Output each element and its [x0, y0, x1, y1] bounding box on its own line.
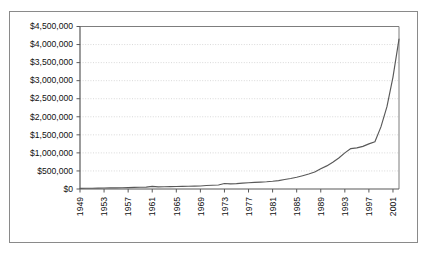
y-tick-label: $0	[63, 184, 73, 194]
x-tick-label: 1949	[75, 197, 85, 216]
x-tick-label: 1993	[340, 197, 350, 216]
y-axis-labels: $4,500,000$4,000,000$3,500,000$3,000,000…	[30, 21, 73, 194]
chart-figure: $4,500,000$4,000,000$3,500,000$3,000,000…	[9, 11, 418, 243]
y-tick-label: $3,500,000	[30, 57, 73, 67]
y-tick-label: $4,500,000	[30, 21, 73, 31]
x-tick-label: 1973	[220, 197, 230, 216]
y-tick-label: $1,500,000	[30, 130, 73, 140]
x-tick-label: 1961	[147, 197, 157, 216]
x-axis-labels: 1949195319571961196519691973197719811985…	[75, 197, 398, 216]
x-tick-label: 2001	[388, 197, 398, 216]
x-tick-label: 1957	[123, 197, 133, 216]
chart-plot: $4,500,000$4,000,000$3,500,000$3,000,000…	[10, 12, 417, 242]
y-tick-label: $1,000,000	[30, 148, 73, 158]
plot-frame	[80, 27, 399, 190]
y-tick-label: $4,000,000	[30, 39, 73, 49]
grid-lines	[80, 45, 399, 171]
x-tick-label: 1953	[99, 197, 109, 216]
x-tick-label: 1965	[172, 197, 182, 216]
x-tick-label: 1981	[268, 197, 278, 216]
x-tick-label: 1985	[292, 197, 302, 216]
x-tick-label: 1989	[316, 197, 326, 216]
data-series-line	[80, 39, 399, 188]
y-tick-label: $3,000,000	[30, 75, 73, 85]
y-tick-label: $2,500,000	[30, 93, 73, 103]
x-tick-label: 1997	[364, 197, 374, 216]
y-tick-label: $500,000	[37, 166, 73, 176]
x-tick-label: 1977	[244, 197, 254, 216]
x-tick-label: 1969	[196, 197, 206, 216]
y-tick-label: $2,000,000	[30, 112, 73, 122]
